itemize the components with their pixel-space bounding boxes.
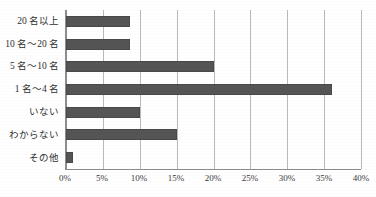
x-axis-tick-label: 0% — [59, 174, 71, 183]
x-axis-tick-labels: 0%5%10%15%20%25%30%35%40% — [65, 172, 361, 188]
y-axis-tick-label: 1 名～4 名 — [0, 79, 64, 102]
y-axis-tick-label: わからない — [0, 124, 64, 147]
x-axis-tick-label: 10% — [131, 174, 148, 183]
bar-row — [66, 33, 361, 56]
bar — [66, 61, 214, 72]
bar-row — [66, 124, 361, 147]
bar — [66, 152, 73, 163]
bar — [66, 107, 140, 118]
bar-chart-figure: 20 名以上 10 名～20 名 5 名～10 名 1 名～4 名 いない わか… — [0, 0, 376, 197]
gridline — [361, 10, 362, 169]
cut-off-caption — [0, 0, 376, 3]
y-axis-tick-label: 5 名～10 名 — [0, 56, 64, 79]
x-axis-tick-label: 25% — [242, 174, 259, 183]
x-axis-tick-label: 20% — [205, 174, 222, 183]
y-axis-tick-label: 10 名～20 名 — [0, 33, 64, 56]
bar — [66, 39, 130, 50]
x-axis-tick-label: 40% — [353, 174, 370, 183]
y-axis-tick-label: 20 名以上 — [0, 10, 64, 33]
bars-layer — [66, 10, 361, 169]
x-axis-tick-label: 35% — [316, 174, 333, 183]
y-axis-tick-label: いない — [0, 101, 64, 124]
bar — [66, 84, 332, 95]
bar-row — [66, 10, 361, 33]
bar-row — [66, 78, 361, 101]
x-axis-tick-label: 30% — [279, 174, 296, 183]
plot-wrapper: 20 名以上 10 名～20 名 5 名～10 名 1 名～4 名 いない わか… — [0, 6, 376, 197]
y-axis-category-labels: 20 名以上 10 名～20 名 5 名～10 名 1 名～4 名 いない わか… — [0, 10, 64, 170]
bar-row — [66, 55, 361, 78]
bar — [66, 129, 177, 140]
bar-row — [66, 101, 361, 124]
bar-row — [66, 146, 361, 169]
bar — [66, 16, 130, 27]
x-axis-tick-label: 5% — [96, 174, 108, 183]
x-axis-tick-label: 15% — [168, 174, 185, 183]
plot-area — [65, 10, 361, 170]
y-axis-tick-label: その他 — [0, 147, 64, 170]
